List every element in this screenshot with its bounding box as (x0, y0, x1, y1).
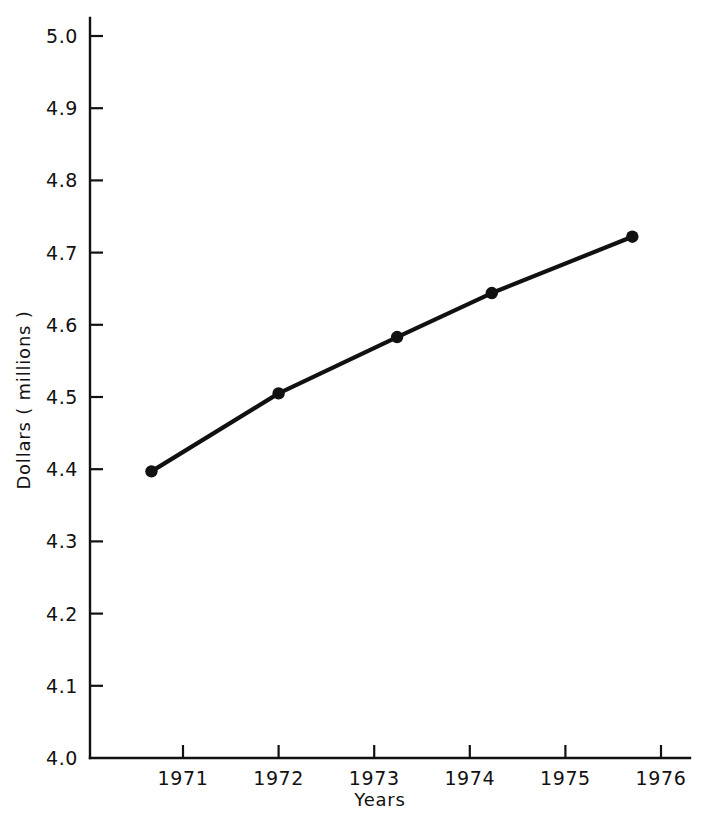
x-axis-tick-label: 1972 (253, 767, 304, 789)
data-point (486, 287, 498, 299)
data-point (145, 465, 157, 477)
y-axis-tick-label: 5.0 (46, 25, 78, 47)
x-axis-tick-group: 197119721973197419751976 (158, 745, 687, 789)
data-series-line (151, 237, 632, 472)
y-axis-tick-label: 4.0 (46, 747, 78, 769)
y-axis-tick-label: 4.3 (46, 530, 78, 552)
y-axis-tick-label: 4.6 (46, 314, 78, 336)
line-chart: 4.04.14.24.34.44.54.64.74.84.95.0 197119… (0, 0, 704, 818)
data-point-group (145, 231, 638, 478)
y-axis-tick-label: 4.7 (46, 242, 78, 264)
data-point (272, 387, 284, 399)
y-axis-tick-label: 4.9 (46, 97, 78, 119)
y-axis-tick-label: 4.1 (46, 675, 78, 697)
data-point (626, 231, 638, 243)
x-axis-tick-label: 1971 (158, 767, 209, 789)
x-axis-title: Years (353, 789, 406, 810)
x-axis-tick-label: 1974 (444, 767, 495, 789)
y-axis-tick-label: 4.2 (46, 603, 78, 625)
y-axis-title: Dollars ( millions ) (13, 310, 34, 489)
y-axis-tick-group: 4.04.14.24.34.44.54.64.74.84.95.0 (46, 25, 103, 769)
x-axis-tick-label: 1976 (636, 767, 687, 789)
y-axis-tick-label: 4.8 (46, 169, 78, 191)
x-axis-tick-label: 1973 (349, 767, 400, 789)
x-axis-tick-label: 1975 (540, 767, 591, 789)
y-axis-tick-label: 4.5 (46, 386, 78, 408)
y-axis-tick-label: 4.4 (46, 458, 78, 480)
chart-canvas: 4.04.14.24.34.44.54.64.74.84.95.0 197119… (0, 0, 704, 818)
data-point (391, 331, 403, 343)
